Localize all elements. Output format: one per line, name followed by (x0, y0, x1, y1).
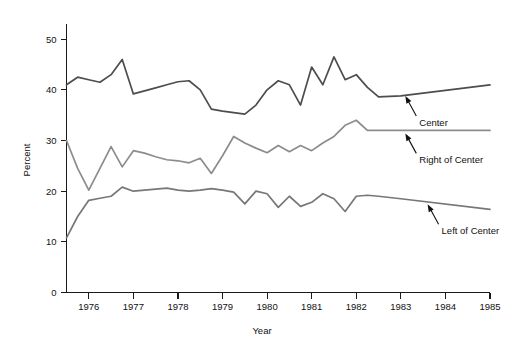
x-tick-label: 1981 (301, 301, 322, 312)
x-axis: 1976197719781979198019811982198319841985… (67, 293, 501, 337)
series-annotation-label: Left of Center (442, 225, 500, 236)
x-axis-title: Year (252, 325, 271, 336)
x-tick-label: 1978 (167, 301, 188, 312)
y-tick-group: 01020304050 (46, 34, 67, 298)
x-tick-label: 1979 (212, 301, 233, 312)
y-tick-label: 20 (46, 186, 57, 197)
series-line-left-of-center (67, 187, 491, 238)
y-tick-label: 30 (46, 135, 57, 146)
series-line-center (67, 57, 491, 114)
x-tick-group: 1976197719781979198019811982198319841985 (78, 293, 500, 312)
x-tick-label: 1984 (435, 301, 456, 312)
y-axis-title: Percent (21, 143, 32, 176)
x-tick-label: 1985 (479, 301, 500, 312)
x-tick-label: 1976 (78, 301, 99, 312)
x-tick-label: 1983 (390, 301, 411, 312)
annotation-group: CenterRight of CenterLeft of Center (405, 96, 499, 236)
annotation-arrow-head (405, 133, 411, 141)
x-tick-label: 1982 (346, 301, 367, 312)
x-tick-label: 1980 (257, 301, 278, 312)
y-tick-label: 0 (51, 287, 56, 298)
chart-canvas: 01020304050 Percent 19761977197819791980… (0, 0, 505, 349)
series-annotation-label: Right of Center (419, 154, 483, 165)
annotation-arrow-head (428, 204, 434, 212)
series-group (67, 57, 491, 238)
y-tick-label: 40 (46, 84, 57, 95)
series-annotation-label: Center (419, 117, 448, 128)
annotation-arrow-head (405, 96, 411, 104)
x-tick-label: 1977 (123, 301, 144, 312)
y-tick-label: 10 (46, 236, 57, 247)
y-tick-label: 50 (46, 34, 57, 45)
line-chart: 01020304050 Percent 19761977197819791980… (0, 0, 505, 349)
y-axis: 01020304050 Percent (21, 24, 67, 298)
